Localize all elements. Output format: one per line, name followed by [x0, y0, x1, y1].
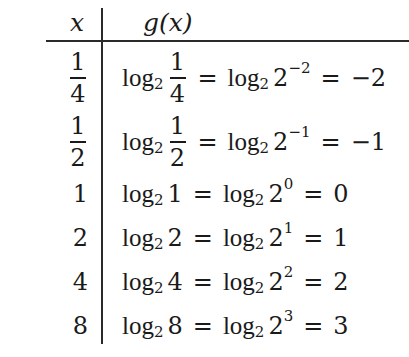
equals: =	[303, 180, 323, 208]
log-label: log	[122, 268, 154, 296]
result: −2	[351, 64, 386, 92]
exponent: 2	[284, 263, 294, 281]
log-argument: 8	[168, 312, 183, 340]
log-base: 2	[154, 323, 164, 341]
denominator: 4	[170, 81, 185, 107]
equals: =	[303, 268, 323, 296]
log-label: log	[223, 312, 255, 340]
equals: =	[193, 268, 213, 296]
log-label: log	[122, 224, 154, 252]
exponent: 0	[284, 175, 294, 193]
fraction-bar	[70, 77, 86, 79]
table-row: 1 log2 1 = log2 20 = 0	[0, 176, 409, 212]
log-label: log	[122, 180, 154, 208]
equals: =	[321, 128, 341, 156]
equals: =	[198, 128, 218, 156]
denominator: 4	[70, 81, 85, 107]
result: 3	[333, 312, 348, 340]
numerator: 1	[70, 49, 85, 75]
x-cell: 1 4	[68, 48, 88, 108]
header-x: x	[70, 8, 84, 38]
x-cell: 4	[73, 264, 88, 300]
g-cell: log2 1 4 = log2 2−2 = −2	[122, 48, 386, 108]
x-cell: 1 2	[68, 112, 88, 172]
denominator: 2	[70, 145, 85, 171]
equals: =	[198, 64, 218, 92]
power-base: 2	[273, 64, 288, 92]
power-base: 2	[268, 224, 283, 252]
g-cell: log2 1 2 = log2 2−1 = −1	[122, 112, 386, 172]
x-cell: 8	[73, 308, 88, 344]
log-label: log	[223, 224, 255, 252]
log-base: 2	[260, 139, 270, 157]
equals: =	[193, 312, 213, 340]
fraction-bar	[170, 77, 186, 79]
table-row: 8 log2 8 = log2 23 = 3	[0, 308, 409, 344]
log-base: 2	[154, 191, 164, 209]
log-base: 2	[255, 235, 265, 253]
arg-fraction: 1 4	[170, 49, 186, 107]
header-g-of-x: g(x)	[143, 8, 193, 38]
result: 0	[333, 180, 348, 208]
log-base: 2	[260, 75, 270, 93]
x-cell: 1	[73, 176, 88, 212]
power-base: 2	[268, 180, 283, 208]
table-row: 2 log2 2 = log2 21 = 1	[0, 220, 409, 256]
numerator: 1	[70, 113, 85, 139]
log-base: 2	[255, 323, 265, 341]
table-row: 1 4 log2 1 4 = log2 2−2 = −2	[0, 48, 409, 108]
log-base: 2	[154, 139, 164, 157]
g-cell: log2 1 = log2 20 = 0	[122, 176, 349, 212]
exponent: 3	[284, 307, 294, 325]
log-base: 2	[154, 75, 164, 93]
equals: =	[303, 312, 323, 340]
numerator: 1	[170, 113, 185, 139]
log-argument: 1	[168, 180, 183, 208]
power-base: 2	[268, 312, 283, 340]
log-label: log	[122, 64, 154, 92]
log-label: log	[122, 312, 154, 340]
result: −1	[351, 128, 386, 156]
log-base: 2	[255, 191, 265, 209]
fraction-bar	[170, 141, 186, 143]
log-label: log	[228, 64, 260, 92]
log-base: 2	[154, 279, 164, 297]
table-row: 1 2 log2 1 2 = log2 2−1 = −1	[0, 112, 409, 172]
log-argument: 4	[168, 268, 183, 296]
equals: =	[193, 180, 213, 208]
x-fraction: 1 2	[70, 113, 86, 171]
log-label: log	[223, 180, 255, 208]
log-argument: 2	[168, 224, 183, 252]
log-label: log	[122, 128, 154, 156]
x-fraction: 1 4	[70, 49, 86, 107]
arg-fraction: 1 2	[170, 113, 186, 171]
g-cell: log2 8 = log2 23 = 3	[122, 308, 349, 344]
g-cell: log2 2 = log2 21 = 1	[122, 220, 349, 256]
exponent: 1	[284, 219, 294, 237]
equals: =	[193, 224, 213, 252]
power-base: 2	[268, 268, 283, 296]
numerator: 1	[170, 49, 185, 75]
denominator: 2	[170, 145, 185, 171]
log-base: 2	[255, 279, 265, 297]
equals: =	[303, 224, 323, 252]
log-label: log	[228, 128, 260, 156]
power-base: 2	[273, 128, 288, 156]
exponent: −1	[288, 123, 310, 141]
result: 2	[333, 268, 348, 296]
table-row: 4 log2 4 = log2 22 = 2	[0, 264, 409, 300]
result: 1	[333, 224, 348, 252]
log-base: 2	[154, 235, 164, 253]
log-label: log	[223, 268, 255, 296]
x-cell: 2	[73, 220, 88, 256]
g-cell: log2 4 = log2 22 = 2	[122, 264, 349, 300]
exponent: −2	[288, 59, 310, 77]
equals: =	[321, 64, 341, 92]
fraction-bar	[70, 141, 86, 143]
